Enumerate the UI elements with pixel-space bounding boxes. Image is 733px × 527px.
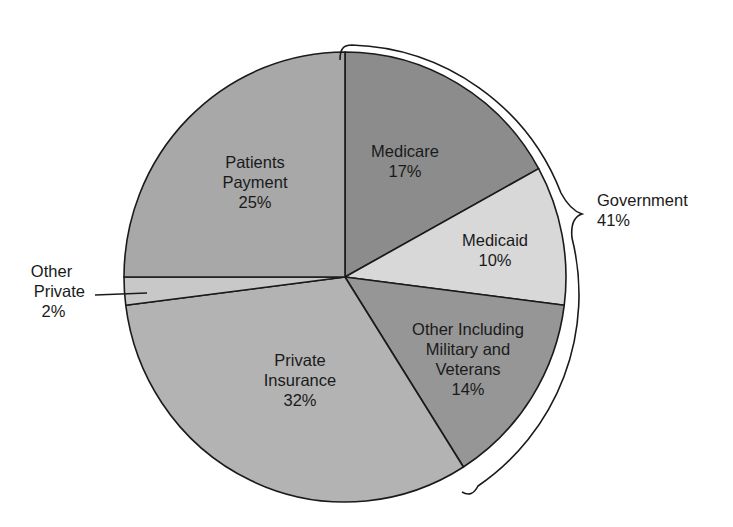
label-value: 10% — [440, 250, 550, 270]
label-value: 25% — [200, 192, 310, 212]
label-text: Patients — [200, 152, 310, 172]
label-value: 14% — [393, 379, 543, 399]
label-text: Insurance — [245, 370, 355, 390]
label-government: Government 41% — [597, 190, 727, 230]
label-text: Private — [10, 281, 85, 301]
label-medicaid: Medicaid 10% — [440, 230, 550, 270]
label-text: Medicaid — [440, 230, 550, 250]
label-other-private: Other Private 2% — [10, 261, 85, 321]
pie-slices — [124, 52, 566, 502]
label-text: Other Including — [393, 319, 543, 339]
label-medicare: Medicare 17% — [355, 141, 455, 181]
label-value: 2% — [10, 301, 85, 321]
label-text: Veterans — [393, 359, 543, 379]
label-text: Military and — [393, 339, 543, 359]
label-value: 41% — [597, 210, 727, 230]
label-other-military-veterans: Other Including Military and Veterans 14… — [393, 319, 543, 399]
pie-chart — [0, 0, 733, 527]
label-value: 32% — [245, 390, 355, 410]
label-text: Medicare — [355, 141, 455, 161]
label-value: 17% — [355, 161, 455, 181]
label-patients-payment: Patients Payment 25% — [200, 152, 310, 212]
label-text: Payment — [200, 172, 310, 192]
label-text: Government — [597, 190, 727, 210]
label-text: Other — [10, 261, 85, 281]
label-text: Private — [245, 350, 355, 370]
label-private-insurance: Private Insurance 32% — [245, 350, 355, 410]
